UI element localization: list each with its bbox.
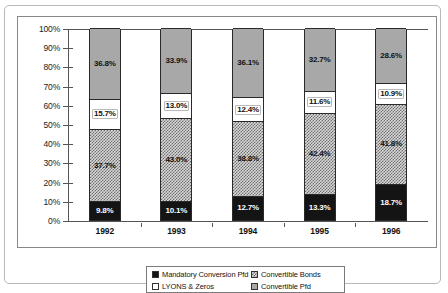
- bar-segment-value-label: 36.8%: [94, 60, 116, 68]
- bar-segment-value-label: 12.4%: [236, 106, 260, 114]
- chart-frame: 0%10%20%30%40%50%60%70%80%90%100% 9.8%37…: [17, 16, 437, 248]
- legend-swatch-icon: [152, 283, 159, 290]
- y-tick-mark: [63, 202, 73, 203]
- y-tick-label: 50%: [44, 121, 60, 130]
- y-tick-label: 70%: [44, 82, 60, 91]
- bar-segment[interactable]: 15.7%: [90, 99, 120, 129]
- y-tick-mark: [63, 106, 73, 107]
- bar-segment-value-label: 10.9%: [379, 90, 403, 98]
- y-tick-label: 60%: [44, 102, 60, 111]
- bar-segment-value-label: 37.7%: [94, 162, 116, 170]
- bar-segment-value-label: 33.9%: [166, 57, 188, 65]
- y-tick-mark: [63, 183, 73, 184]
- y-tick-label: 10%: [44, 198, 60, 207]
- bar-group-1993[interactable]: 10.1%43.0%13.0%33.9%: [141, 29, 213, 221]
- bar-segment-value-label: 9.8%: [96, 207, 113, 215]
- y-tick-mark: [63, 144, 73, 145]
- bar-segment[interactable]: 13.3%: [305, 194, 335, 220]
- bar-segment-value-label: 41.8%: [380, 140, 402, 148]
- y-tick-label: 20%: [44, 178, 60, 187]
- bar-segment[interactable]: 10.9%: [376, 83, 406, 104]
- bar-group-1996[interactable]: 18.7%41.8%10.9%28.6%: [355, 29, 427, 221]
- x-tick-mark: [355, 223, 356, 227]
- y-tick-label: 100%: [39, 25, 60, 34]
- plot-area: 9.8%37.7%15.7%36.8%10.1%43.0%13.0%33.9%1…: [69, 29, 427, 221]
- x-tick-mark: [141, 223, 142, 227]
- legend-label: Convertible Bonds: [261, 270, 321, 279]
- bar-segment-value-label: 43.0%: [166, 156, 188, 164]
- bar-segment-value-label: 11.6%: [308, 98, 331, 106]
- y-tick-mark: [63, 87, 73, 88]
- bar-group-1992[interactable]: 9.8%37.7%15.7%36.8%: [69, 29, 141, 221]
- bar-segment[interactable]: 9.8%: [90, 201, 120, 220]
- x-tick-mark: [212, 223, 213, 227]
- bar-segment[interactable]: 36.8%: [90, 28, 120, 99]
- bar-segment-value-label: 10.1%: [166, 207, 188, 215]
- bar-segment[interactable]: 41.8%: [376, 104, 406, 184]
- bar-segment[interactable]: 18.7%: [376, 184, 406, 220]
- y-tick-mark: [63, 163, 73, 164]
- legend-swatch-icon: [251, 271, 258, 278]
- bar-segment-value-label: 42.4%: [309, 150, 331, 158]
- bar-segment-value-label: 13.0%: [165, 102, 189, 110]
- page-frame: 0%10%20%30%40%50%60%70%80%90%100% 9.8%37…: [4, 5, 441, 284]
- legend-swatch-icon: [251, 283, 258, 290]
- y-tick-mark: [63, 29, 73, 30]
- bar-segment-value-label: 28.6%: [380, 52, 402, 60]
- x-tick-label-1994: 1994: [212, 226, 284, 236]
- y-tick-label: 0%: [48, 217, 60, 226]
- bar-segment[interactable]: 36.1%: [233, 28, 263, 97]
- x-tick-label-1993: 1993: [141, 226, 213, 236]
- y-tick-mark: [63, 221, 73, 222]
- bar-segment-value-label: 12.7%: [237, 204, 259, 212]
- x-tick-label-1995: 1995: [284, 226, 356, 236]
- bar-segment[interactable]: 43.0%: [161, 118, 191, 201]
- stacked-bar[interactable]: 13.3%42.4%11.6%32.7%: [304, 29, 336, 221]
- stacked-bar[interactable]: 9.8%37.7%15.7%36.8%: [89, 29, 121, 221]
- bar-segment-value-label: 18.7%: [380, 199, 402, 207]
- y-tick-label: 90%: [44, 44, 60, 53]
- bar-group-1994[interactable]: 12.7%38.8%12.4%36.1%: [212, 29, 284, 221]
- bar-segment[interactable]: 42.4%: [305, 113, 335, 194]
- legend-item[interactable]: Convertible Pfd: [251, 281, 321, 292]
- bar-segment[interactable]: 11.6%: [305, 91, 335, 113]
- y-tick-mark: [63, 48, 73, 49]
- bar-segment[interactable]: 13.0%: [161, 93, 191, 118]
- y-axis: 0%10%20%30%40%50%60%70%80%90%100%: [18, 29, 64, 221]
- legend-item[interactable]: Convertible Bonds: [251, 269, 321, 280]
- bar-segment[interactable]: 33.9%: [161, 28, 191, 93]
- bar-segment-value-label: 13.3%: [309, 204, 331, 212]
- bar-segment[interactable]: 37.7%: [90, 129, 120, 201]
- bar-segment-value-label: 32.7%: [309, 56, 331, 64]
- legend-column-left: Mandatory Conversion PfdLYONS & Zeros: [152, 269, 248, 293]
- bar-segment[interactable]: 12.7%: [233, 196, 263, 220]
- y-tick-label: 30%: [44, 159, 60, 168]
- bar-segment[interactable]: 32.7%: [305, 28, 335, 91]
- legend-swatch-icon: [152, 271, 159, 278]
- legend-item[interactable]: Mandatory Conversion Pfd: [152, 269, 248, 280]
- legend-label: Mandatory Conversion Pfd: [162, 270, 248, 279]
- legend-column-right: Convertible BondsConvertible Pfd: [251, 269, 321, 293]
- x-tick-mark: [284, 223, 285, 227]
- legend-label: Convertible Pfd: [261, 282, 311, 291]
- stacked-bar[interactable]: 10.1%43.0%13.0%33.9%: [160, 29, 192, 221]
- bar-segment-value-label: 36.1%: [237, 59, 259, 67]
- y-tick-mark: [63, 67, 73, 68]
- bar-segment[interactable]: 12.4%: [233, 97, 263, 121]
- stacked-bar[interactable]: 12.7%38.8%12.4%36.1%: [232, 29, 264, 221]
- bar-segment[interactable]: 38.8%: [233, 121, 263, 195]
- bar-group-1995[interactable]: 13.3%42.4%11.6%32.7%: [284, 29, 356, 221]
- legend-label: LYONS & Zeros: [162, 282, 214, 291]
- legend-item[interactable]: LYONS & Zeros: [152, 281, 248, 292]
- y-tick-label: 80%: [44, 63, 60, 72]
- bar-segment[interactable]: 28.6%: [376, 28, 406, 83]
- y-tick-mark: [63, 125, 73, 126]
- bar-segment-value-label: 15.7%: [93, 110, 117, 118]
- bar-segment[interactable]: 10.1%: [161, 201, 191, 220]
- x-tick-label-1996: 1996: [355, 226, 427, 236]
- y-tick-label: 40%: [44, 140, 60, 149]
- stacked-bar[interactable]: 18.7%41.8%10.9%28.6%: [375, 29, 407, 221]
- x-axis: 19921993199419951996: [69, 223, 427, 239]
- chart-legend: Mandatory Conversion PfdLYONS & Zeros Co…: [146, 266, 345, 293]
- bar-segment-value-label: 38.8%: [237, 155, 259, 163]
